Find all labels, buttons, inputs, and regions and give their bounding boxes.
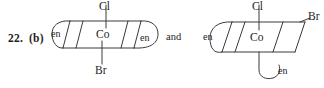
figure-canvas: 22. (b) Cl Br Co en en and Cl Br Co en e…	[0, 0, 324, 88]
left-label-en-left: en	[51, 29, 60, 39]
right-en-arc-left	[210, 22, 232, 52]
structure-drawing	[0, 0, 324, 88]
left-near-left-edge	[63, 21, 70, 48]
left-inner-left-edge	[76, 21, 83, 48]
left-label-cl: Cl	[99, 1, 110, 13]
right-label-cl: Cl	[252, 1, 263, 13]
right-complex-parallelogram	[222, 22, 305, 52]
left-label-co: Co	[96, 29, 109, 41]
right-near-right-edge	[295, 22, 305, 52]
right-label-co: Co	[250, 32, 263, 44]
right-label-br: Br	[308, 11, 320, 23]
right-inner-left-edge	[235, 22, 245, 52]
left-inner-right-edge	[121, 21, 128, 48]
right-label-en-left: en	[203, 32, 212, 42]
question-number: 22.	[8, 33, 23, 45]
right-inner-right-edge	[273, 22, 283, 52]
part-label: (b)	[29, 33, 44, 45]
conjunction-and: and	[166, 32, 181, 43]
left-label-en-right: en	[140, 33, 149, 43]
right-en-arc-bottom	[259, 52, 280, 79]
right-near-left-edge	[222, 22, 232, 52]
left-label-br: Br	[95, 65, 107, 77]
right-label-en-bottom: en	[278, 66, 287, 76]
